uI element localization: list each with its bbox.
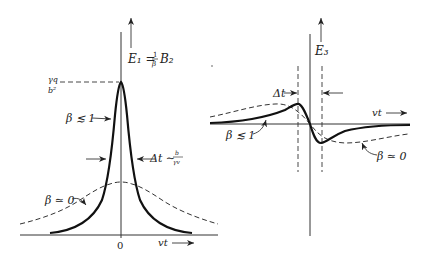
left-width-frac-den: γv — [173, 158, 181, 166]
print-speck — [211, 65, 213, 67]
right-label-beta-zero: β ≃ 0 — [376, 150, 407, 163]
right-width-label: Δt — [272, 87, 286, 100]
right-y-axis-label: E₃ — [314, 44, 329, 58]
left-panel-e1: E₁ = 1 β B₂ γq b² β ≲ 1 Δt ∼ b γv β ≃ 0 … — [20, 18, 218, 251]
left-width-label: Δt ∼ — [149, 152, 175, 165]
left-width-frac-num: b — [175, 149, 179, 156]
peak-label-den: b² — [48, 86, 56, 95]
right-leader-beta-zero — [362, 143, 377, 155]
left-origin-label: 0 — [117, 240, 123, 251]
field-pulse-diagram: E₁ = 1 β B₂ γq b² β ≲ 1 Δt ∼ b γv β ≃ 0 … — [0, 0, 428, 259]
left-y-label-tail: B₂ — [159, 52, 174, 66]
left-x-axis-label: vt — [158, 237, 169, 248]
right-label-beta-one: β ≲ 1 — [225, 129, 255, 142]
left-y-frac-num: 1 — [153, 51, 157, 59]
peak-label-num: γq — [48, 75, 58, 84]
left-y-frac-den: β — [151, 60, 156, 68]
right-panel-e3: E₃ Δt β ≲ 1 β ≃ 0 vt — [210, 18, 410, 236]
left-label-beta-zero: β ≃ 0 — [44, 194, 75, 207]
left-label-beta-one: β ≲ 1 — [65, 112, 95, 125]
right-x-axis-label: vt — [372, 107, 383, 118]
